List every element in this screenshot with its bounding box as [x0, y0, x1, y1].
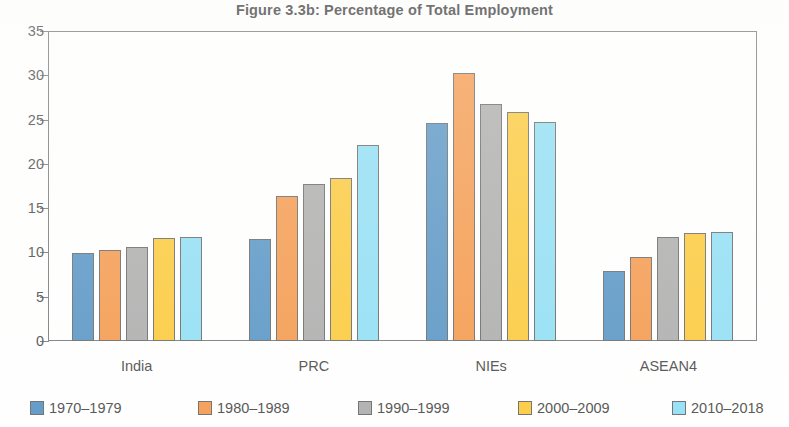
y-axis-tick-label: 10	[10, 244, 44, 260]
bar	[153, 238, 175, 341]
legend-item[interactable]: 2000–2009	[518, 400, 610, 416]
legend-swatch-icon	[358, 401, 372, 415]
bar	[630, 257, 652, 341]
y-axis-tick-label: 30	[10, 67, 44, 83]
legend-label: 2010–2018	[691, 400, 764, 416]
legend-item[interactable]: 1980–1989	[198, 400, 290, 416]
y-axis-tick-label: 20	[10, 156, 44, 172]
legend-swatch-icon	[198, 401, 212, 415]
bar	[330, 178, 352, 341]
legend-item[interactable]: 1990–1999	[358, 400, 450, 416]
legend-swatch-icon	[30, 401, 44, 415]
x-axis-label-prc: PRC	[299, 358, 330, 374]
chart-legend: 1970–19791980–19891990–19992000–20092010…	[0, 400, 789, 424]
y-axis-tick-label: 5	[10, 289, 44, 305]
bar	[249, 239, 271, 341]
x-axis-label-india: India	[121, 358, 152, 374]
legend-swatch-icon	[672, 401, 686, 415]
bar	[357, 145, 379, 341]
bar	[276, 196, 298, 341]
bar	[603, 271, 625, 341]
bar	[426, 123, 448, 341]
bar	[180, 237, 202, 342]
bar	[684, 233, 706, 341]
bar	[453, 73, 475, 341]
chart-title: Figure 3.3b: Percentage of Total Employm…	[0, 2, 789, 18]
bar	[480, 104, 502, 341]
figure-container: Figure 3.3b: Percentage of Total Employm…	[0, 0, 789, 427]
y-axis-tick-label: 0	[10, 333, 44, 349]
legend-label: 1970–1979	[49, 400, 122, 416]
y-axis-tick-label: 15	[10, 200, 44, 216]
y-axis-tick-label: 35	[10, 23, 44, 39]
bar	[72, 253, 94, 341]
bar	[99, 250, 121, 341]
legend-item[interactable]: 2010–2018	[672, 400, 764, 416]
y-axis-tick-label: 25	[10, 112, 44, 128]
bar	[711, 232, 733, 341]
bar	[657, 237, 679, 341]
legend-swatch-icon	[518, 401, 532, 415]
legend-item[interactable]: 1970–1979	[30, 400, 122, 416]
bar	[126, 247, 148, 341]
x-axis-label-asean4: ASEAN4	[640, 358, 697, 374]
legend-label: 1990–1999	[377, 400, 450, 416]
bar	[507, 112, 529, 341]
legend-label: 1980–1989	[217, 400, 290, 416]
bar	[303, 184, 325, 341]
x-axis-label-nies: NIEs	[475, 358, 506, 374]
legend-label: 2000–2009	[537, 400, 610, 416]
bar	[534, 122, 556, 341]
